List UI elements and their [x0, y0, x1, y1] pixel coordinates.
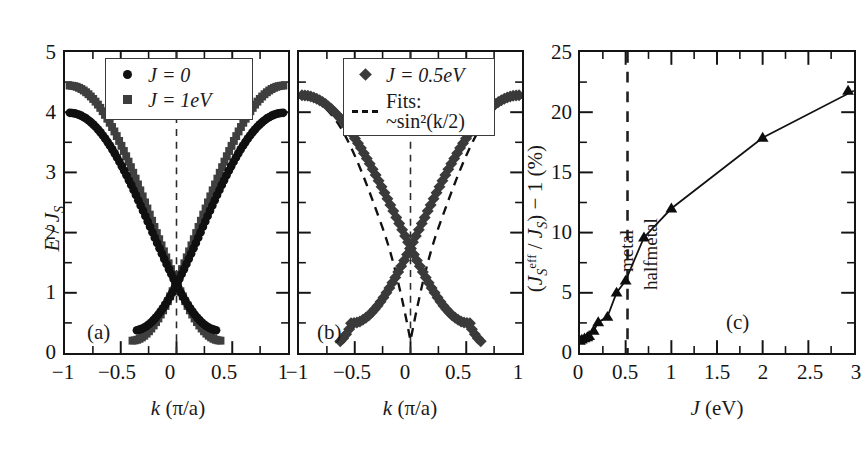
panel-c-xtick-3: 3 — [842, 362, 868, 383]
panel-c-xtick-0: 0 — [564, 362, 592, 383]
panel-c-ytick-15: 15 — [540, 162, 572, 183]
diamond-marker-icon — [350, 70, 380, 79]
panel-c-xtick-2: 2 — [749, 362, 777, 383]
panel-c-data-line — [580, 91, 854, 341]
circle-marker-icon — [112, 70, 142, 79]
panel-b-xtick--0.5: −0.5 — [328, 362, 376, 383]
panel-a-legend-row-0: J = 0 — [112, 62, 244, 87]
panel-a-legend-label-0: J = 0 — [142, 65, 190, 85]
panel-c-ytick-5: 5 — [540, 282, 572, 303]
panel-b-y-major-ticks — [299, 112, 522, 293]
panel-a-ytick-5: 5 — [36, 42, 56, 63]
y-axis-J1-sub: S — [534, 269, 550, 276]
panel-b-legend-label-1-line2: ~sin²(k/2) — [386, 111, 465, 131]
panel-c-x-axis-title: J (eV) — [652, 396, 782, 421]
panel-a-ytick-1: 1 — [36, 282, 56, 303]
square-marker-icon — [112, 95, 142, 104]
x-axis-k: k — [383, 396, 392, 420]
panel-c-x-minor-ticks — [603, 52, 831, 353]
panel-a-xtick--0.5: −0.5 — [93, 362, 141, 383]
panel-b-tag: (b) — [317, 320, 342, 345]
panel-c-canvas — [580, 52, 854, 353]
panel-a-legend-row-1: J = 1eV — [112, 87, 244, 112]
panel-c-ytick-0: 0 — [540, 342, 572, 363]
panel-b-plot-area: J = 0.5eV Fits: ~sin²(k/2) (b) — [297, 50, 524, 355]
panel-b-xtick-1: 1 — [505, 362, 531, 383]
y-axis-J1-sup: eff — [524, 255, 539, 269]
y-axis-close: ) − 1 (%) — [523, 145, 547, 222]
panel-a-xtick-0.5: 0.5 — [200, 362, 248, 383]
panel-a-xtick-0: 0 — [157, 362, 183, 383]
panel-b-legend-label-1-line1: Fits: — [386, 91, 465, 111]
panel-a-ytick-2: 2 — [36, 222, 56, 243]
panel-c-ytick-20: 20 — [540, 102, 572, 123]
panel-a-legend-label-1: J = 1eV — [142, 90, 211, 110]
panel-c-markers — [580, 85, 854, 345]
panel-a-legend: J = 0 J = 1eV — [105, 58, 253, 120]
x-axis-unit: (π/a) — [392, 396, 437, 420]
panel-c-plot-area: metal halfmetal (c) — [578, 50, 856, 355]
panel-b-legend-row-1: Fits: ~sin²(k/2) — [350, 87, 486, 135]
panel-b-x-axis-title: k (π/a) — [345, 396, 475, 421]
panel-a-ytick-3: 3 — [36, 162, 56, 183]
x-axis-unit: (π/a) — [160, 396, 205, 420]
panel-c-ytick-10: 10 — [540, 222, 572, 243]
panel-a-y-major-ticks — [65, 112, 288, 293]
panel-c-phase-label-metal: metal — [616, 230, 638, 272]
panel-a-xtick--1: −1 — [43, 362, 83, 383]
panel-c-ytick-25: 25 — [540, 42, 572, 63]
panel-c-xtick-1: 1 — [657, 362, 685, 383]
panel-a-tag: (a) — [87, 320, 110, 345]
panel-b-legend-row-0: J = 0.5eV — [350, 62, 486, 87]
panel-c-phase-label-halfmetal: halfmetal — [640, 218, 662, 290]
panel-a-ytick-4: 4 — [36, 102, 56, 123]
panel-b-xtick--1: −1 — [283, 362, 311, 383]
x-axis-k: k — [151, 396, 160, 420]
figure-root: E / JS 5 4 3 2 1 0 — [0, 0, 868, 467]
panel-c-y-axis-title: (JSeff / JS) − 1 (%) — [523, 94, 550, 344]
panel-c-xtick-0.5: 0.5 — [602, 362, 648, 383]
dashed-line-icon — [350, 110, 380, 113]
panel-c-xtick-2.5: 2.5 — [787, 362, 833, 383]
panel-a-plot-area: J = 0 J = 1eV (a) — [63, 50, 290, 355]
panel-b-xtick-0.5: 0.5 — [434, 362, 482, 383]
panel-b-legend: J = 0.5eV Fits: ~sin²(k/2) — [343, 58, 495, 136]
panel-b-xtick-0: 0 — [392, 362, 418, 383]
panel-c-x-major-ticks — [626, 52, 809, 353]
x-axis-J: J — [690, 396, 699, 420]
panel-c-tag: (c) — [726, 310, 749, 335]
x-axis-unit: (eV) — [700, 396, 744, 420]
panel-b-legend-label-0: J = 0.5eV — [380, 65, 464, 85]
panel-c-xtick-1.5: 1.5 — [694, 362, 740, 383]
panel-a-x-axis-title: k (π/a) — [113, 396, 243, 421]
